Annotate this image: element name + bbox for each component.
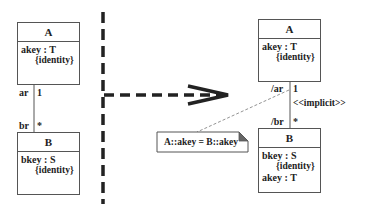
class-name: A	[259, 20, 320, 39]
class-name: B	[18, 133, 79, 152]
class-attribute: bkey : S	[21, 154, 76, 165]
class-name: B	[259, 129, 320, 148]
class-name: A	[18, 23, 79, 42]
left-role-b: br	[19, 121, 29, 131]
left-mult-a: 1	[37, 88, 42, 98]
right-role-b: /br	[271, 117, 284, 127]
class-attribute: akey : T	[21, 44, 76, 55]
derived-attribute: akey : T	[262, 172, 317, 183]
class-constraint: {identity}	[262, 161, 317, 172]
left-class-a: A akey : T {identity}	[17, 22, 80, 85]
right-class-a: A akey : T {identity}	[258, 19, 321, 82]
right-mult-a: 1	[293, 84, 298, 94]
right-class-b: B bkey : S {identity} akey : T	[258, 128, 321, 193]
note-text: A::akey = B::akey	[159, 134, 243, 151]
class-constraint: {identity}	[21, 55, 76, 66]
left-class-b: B bkey : S {identity}	[17, 132, 80, 195]
class-attribute: bkey : S	[262, 150, 317, 161]
left-mult-b: *	[37, 121, 42, 131]
class-constraint: {identity}	[21, 165, 76, 176]
right-role-a: /ar	[271, 84, 283, 94]
right-stereotype: <<implicit>>	[293, 98, 346, 108]
class-attribute: akey : T	[262, 41, 317, 52]
right-mult-b: *	[293, 117, 298, 127]
left-role-a: ar	[19, 88, 28, 98]
class-constraint: {identity}	[262, 52, 317, 63]
